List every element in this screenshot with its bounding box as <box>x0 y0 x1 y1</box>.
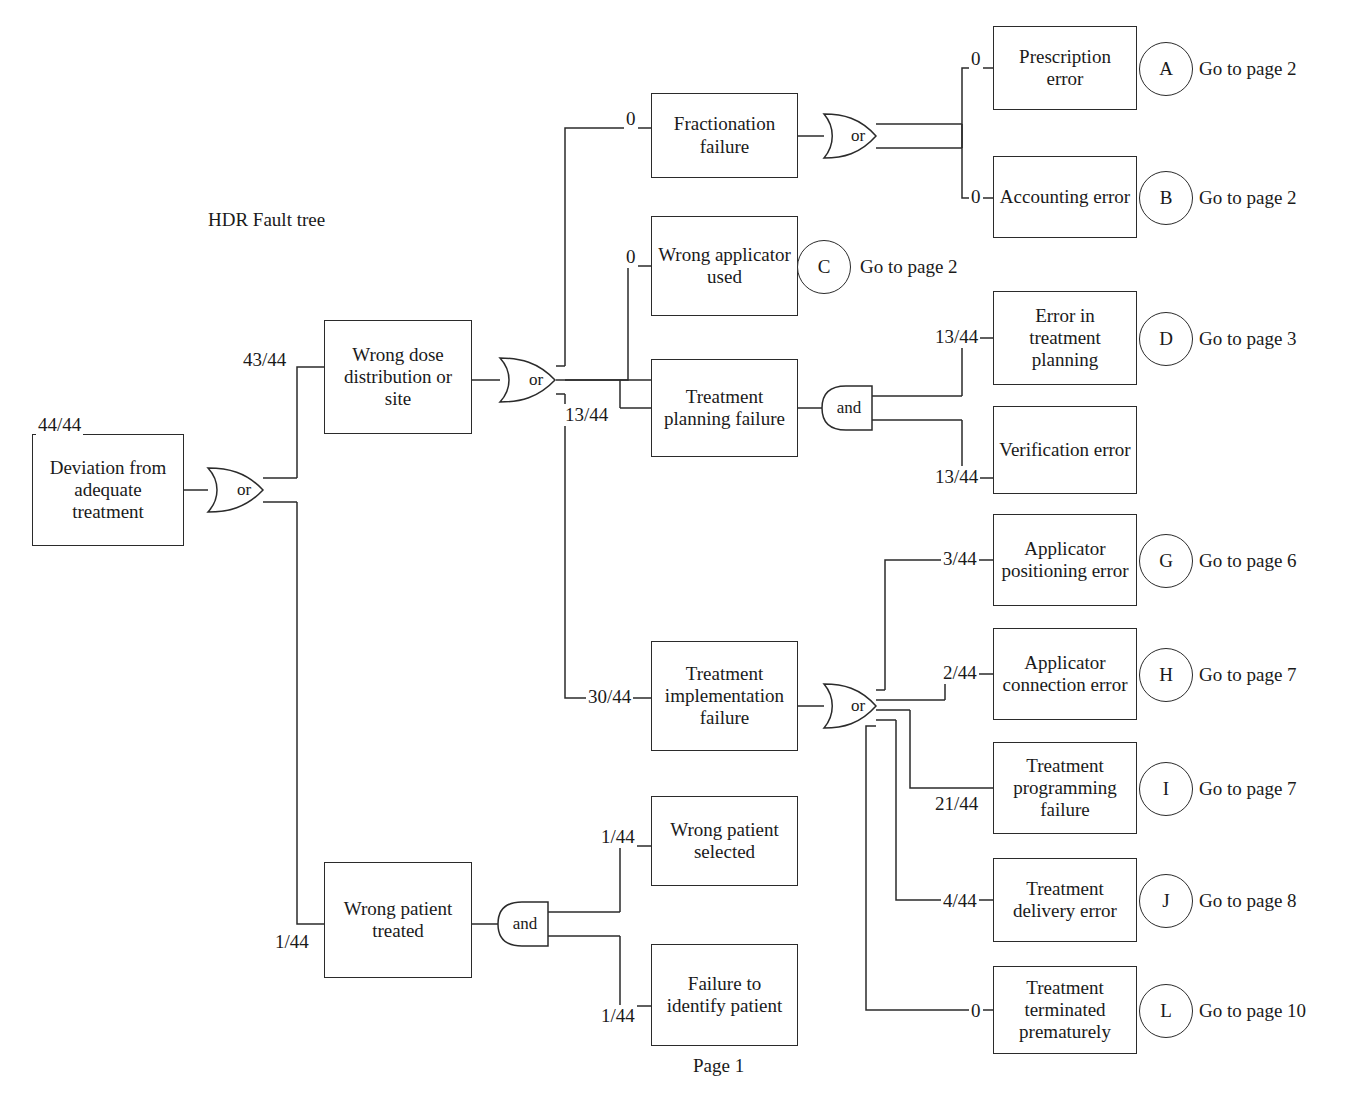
value-programming-failure: 21/44 <box>933 793 980 815</box>
page-label: Page 1 <box>693 1055 744 1077</box>
goto-label-h: Go to page 7 <box>1199 664 1297 686</box>
node-prescription-error[interactable]: Prescription error <box>993 26 1137 110</box>
node-label: Error in treatment planning <box>999 305 1131 371</box>
node-label: Verification error <box>999 439 1130 461</box>
transfer-id: C <box>818 256 831 278</box>
value-wrong-dose: 43/44 <box>241 349 288 371</box>
value-prescription: 0 <box>969 48 983 70</box>
node-accounting-error[interactable]: Accounting error <box>993 156 1137 238</box>
fault-tree-diagram: HDR Fault tree Page 1 Deviation from ade… <box>0 0 1345 1102</box>
transfer-circle-l[interactable]: L <box>1139 984 1193 1038</box>
node-label: Wrong applicator used <box>657 244 792 288</box>
transfer-id: G <box>1159 550 1173 572</box>
transfer-circle-d[interactable]: D <box>1139 312 1193 366</box>
page-title: HDR Fault tree <box>208 209 325 231</box>
node-deviation-from-adequate-treatment[interactable]: Deviation from adequate treatment <box>32 434 184 546</box>
transfer-circle-i[interactable]: I <box>1139 762 1193 816</box>
node-wrong-patient-treated[interactable]: Wrong patient treated <box>324 862 472 978</box>
node-applicator-connection-error[interactable]: Applicator connection error <box>993 628 1137 720</box>
value-treatment-implementation-failure: 30/44 <box>586 686 633 708</box>
node-label: Failure to identify patient <box>657 973 792 1017</box>
node-label: Treatment programming failure <box>999 755 1131 821</box>
node-label: Treatment implementation failure <box>657 663 792 729</box>
transfer-circle-a[interactable]: A <box>1139 42 1193 96</box>
value-applicator-positioning: 3/44 <box>941 548 979 570</box>
transfer-circle-j[interactable]: J <box>1139 874 1193 928</box>
node-fractionation-failure[interactable]: Fractionation failure <box>651 93 798 178</box>
node-label: Accounting error <box>1000 186 1130 208</box>
goto-label-g: Go to page 6 <box>1199 550 1297 572</box>
value-fractionation: 0 <box>624 108 638 130</box>
node-label: Wrong dose distribution or site <box>330 344 466 410</box>
value-accounting: 0 <box>969 186 983 208</box>
node-treatment-delivery-error[interactable]: Treatment delivery error <box>993 858 1137 942</box>
value-applicator: 0 <box>624 246 638 268</box>
value-treatment-planning-failure: 13/44 <box>563 404 610 426</box>
node-treatment-planning-failure[interactable]: Treatment planning failure <box>651 359 798 457</box>
node-treatment-implementation-failure[interactable]: Treatment implementation failure <box>651 641 798 751</box>
transfer-id: H <box>1159 664 1173 686</box>
node-label: Treatment delivery error <box>999 878 1131 922</box>
gate-and-treatment-planning[interactable]: and <box>820 384 874 432</box>
goto-label-i: Go to page 7 <box>1199 778 1297 800</box>
value-verification: 13/44 <box>933 466 980 488</box>
goto-label-l: Go to page 10 <box>1199 1000 1306 1022</box>
value-failure-identify: 1/44 <box>599 1005 637 1027</box>
transfer-circle-h[interactable]: H <box>1139 648 1193 702</box>
node-label: Fractionation failure <box>657 113 792 157</box>
node-treatment-terminated-prematurely[interactable]: Treatment terminated prematurely <box>993 966 1137 1054</box>
value-applicator-connection: 2/44 <box>941 662 979 684</box>
value-delivery-error: 4/44 <box>941 890 979 912</box>
node-treatment-programming-failure[interactable]: Treatment programming failure <box>993 742 1137 834</box>
transfer-circle-c[interactable]: C <box>797 240 851 294</box>
node-error-in-treatment-planning[interactable]: Error in treatment planning <box>993 291 1137 385</box>
node-label: Applicator positioning error <box>999 538 1131 582</box>
transfer-id: L <box>1160 1000 1172 1022</box>
goto-label-j: Go to page 8 <box>1199 890 1297 912</box>
transfer-id: I <box>1163 778 1169 800</box>
node-label: Wrong patient selected <box>657 819 792 863</box>
value-root: 44/44 <box>36 414 83 436</box>
transfer-id: J <box>1162 890 1169 912</box>
goto-label-a: Go to page 2 <box>1199 58 1297 80</box>
goto-label-d: Go to page 3 <box>1199 328 1297 350</box>
gate-or-fractionation[interactable]: or <box>822 110 878 162</box>
transfer-id: A <box>1159 58 1173 80</box>
value-wrong-patient-selected: 1/44 <box>599 826 637 848</box>
transfer-circle-g[interactable]: G <box>1139 534 1193 588</box>
node-label: Treatment planning failure <box>657 386 792 430</box>
transfer-id: B <box>1160 187 1173 209</box>
goto-label-b: Go to page 2 <box>1199 187 1297 209</box>
gate-or-treatment-implementation[interactable]: or <box>822 680 878 732</box>
node-label: Prescription error <box>999 46 1131 90</box>
gate-or-root[interactable]: or <box>206 464 266 516</box>
node-wrong-patient-selected[interactable]: Wrong patient selected <box>651 796 798 886</box>
value-terminated: 0 <box>969 1000 983 1022</box>
goto-label-c: Go to page 2 <box>860 256 958 278</box>
node-verification-error[interactable]: Verification error <box>993 406 1137 494</box>
node-label: Deviation from adequate treatment <box>38 457 178 523</box>
value-wrong-patient: 1/44 <box>273 931 311 953</box>
node-wrong-dose-distribution-or-site[interactable]: Wrong dose distribution or site <box>324 320 472 434</box>
node-wrong-applicator-used[interactable]: Wrong applicator used <box>651 216 798 316</box>
value-error-in-treatment-planning: 13/44 <box>933 326 980 348</box>
gate-or-wrong-dose[interactable]: or <box>498 354 558 406</box>
node-label: Wrong patient treated <box>330 898 466 942</box>
node-failure-to-identify-patient[interactable]: Failure to identify patient <box>651 944 798 1046</box>
transfer-id: D <box>1159 328 1173 350</box>
node-label: Treatment terminated prematurely <box>999 977 1131 1043</box>
transfer-circle-b[interactable]: B <box>1139 171 1193 225</box>
node-applicator-positioning-error[interactable]: Applicator positioning error <box>993 514 1137 606</box>
node-label: Applicator connection error <box>999 652 1131 696</box>
gate-and-wrong-patient[interactable]: and <box>496 900 550 948</box>
